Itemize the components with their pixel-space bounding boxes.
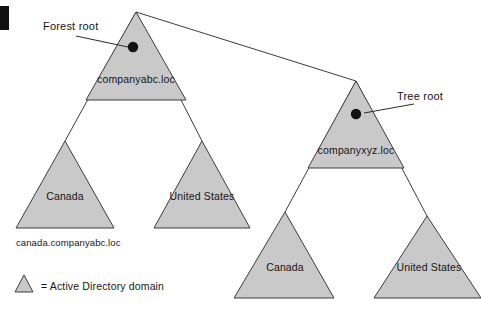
forest-root-dot: [128, 42, 138, 52]
page-corner-mark: [0, 6, 9, 30]
domain-triangle-companyabc[interactable]: [86, 12, 186, 100]
domain-label-companyabc: companyabc.loc: [97, 73, 175, 85]
domain-label-companyxyz: companyxyz.loc: [318, 144, 395, 156]
domain-triangle-companyabc-canada[interactable]: [16, 141, 114, 228]
domain-triangle-companyabc-united-states[interactable]: [154, 141, 250, 228]
tree-root-dot: [351, 109, 361, 119]
domain-triangle-companyxyz-canada[interactable]: [234, 212, 334, 298]
legend-label: = Active Directory domain: [41, 280, 164, 292]
legend-domain-triangle-icon: [15, 275, 33, 292]
caption-canada-fqdn: canada.companyabc.loc: [16, 237, 121, 248]
diagram-canvas: companyabc.loc Canada canada.companyabc.…: [0, 0, 481, 310]
active-directory-forest-diagram: companyabc.loc Canada canada.companyabc.…: [0, 0, 481, 310]
domain-triangle-companyxyz-united-states[interactable]: [374, 216, 481, 298]
callout-label-tree-root: Tree root: [397, 90, 443, 102]
domain-label-companyxyz-united-states: United States: [397, 261, 462, 273]
callout-label-forest-root: Forest root: [43, 20, 98, 32]
domain-label-companyabc-united-states: United States: [170, 190, 235, 202]
domain-label-companyabc-canada: Canada: [46, 190, 84, 202]
domain-label-companyxyz-canada: Canada: [266, 261, 304, 273]
